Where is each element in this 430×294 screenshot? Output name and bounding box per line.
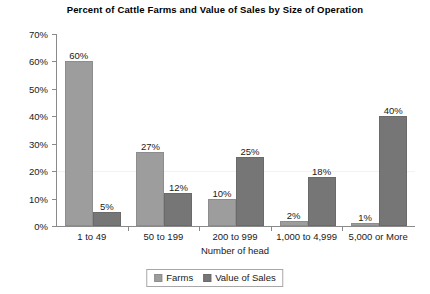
- bar-farms[interactable]: 60%: [65, 61, 93, 226]
- bar-value-label: 1%: [358, 212, 372, 223]
- bar-value-label: 12%: [169, 182, 188, 193]
- legend-swatch-icon: [154, 274, 162, 282]
- x-axis-tick-label: 200 to 999: [213, 231, 258, 242]
- bar-value-label: 25%: [240, 146, 259, 157]
- bar-group: 10%25%: [208, 34, 264, 226]
- bar-farms[interactable]: 10%: [208, 199, 236, 226]
- bar-value-label: 27%: [141, 141, 160, 152]
- x-axis-tick-label: 1 to 49: [77, 231, 106, 242]
- bar-value-of-sales[interactable]: 12%: [164, 193, 192, 226]
- x-axis-labels: 1 to 4950 to 199200 to 9991,000 to 4,999…: [56, 231, 414, 245]
- bar-group: 1%40%: [351, 34, 407, 226]
- bar-value-of-sales[interactable]: 5%: [93, 212, 121, 226]
- bar-value-label: 18%: [312, 166, 331, 177]
- legend-entry[interactable]: Value of Sales: [203, 272, 276, 283]
- bar-value-of-sales[interactable]: 25%: [236, 157, 264, 226]
- y-axis-tick-marks: [0, 34, 56, 227]
- bar-value-label: 2%: [287, 210, 301, 221]
- bar-group: 27%12%: [136, 34, 192, 226]
- bar-value-label: 60%: [69, 50, 88, 61]
- bar-value-of-sales[interactable]: 18%: [308, 177, 336, 226]
- bar-value-label: 5%: [100, 201, 114, 212]
- x-axis-tick-label: 50 to 199: [144, 231, 184, 242]
- bar-value-label: 40%: [384, 105, 403, 116]
- legend-entry[interactable]: Farms: [154, 272, 193, 283]
- x-axis-title: Number of head: [56, 245, 414, 256]
- bar-group: 2%18%: [280, 34, 336, 226]
- chart-title: Percent of Cattle Farms and Value of Sal…: [0, 4, 430, 15]
- legend-swatch-icon: [203, 274, 211, 282]
- chart-legend: FarmsValue of Sales: [146, 269, 283, 287]
- bar-value-of-sales[interactable]: 40%: [379, 116, 407, 226]
- bar-value-label: 10%: [212, 188, 231, 199]
- plot-area: 60%5%27%12%10%25%2%18%1%40%: [56, 34, 415, 227]
- bar-group: 60%5%: [65, 34, 121, 226]
- bar-farms[interactable]: 27%: [136, 152, 164, 226]
- x-axis-tick-label: 1,000 to 4,999: [276, 231, 337, 242]
- x-axis-tick-label: 5,000 or More: [349, 231, 408, 242]
- legend-label: Value of Sales: [215, 272, 276, 283]
- legend-label: Farms: [166, 272, 193, 283]
- cattle-farms-bar-chart: Percent of Cattle Farms and Value of Sal…: [0, 0, 430, 294]
